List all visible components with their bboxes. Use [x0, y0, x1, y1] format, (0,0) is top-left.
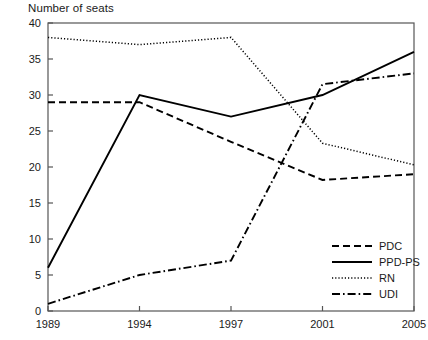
x-axis-tick-label: 1997 [219, 318, 243, 330]
y-axis-tick-label: 20 [29, 161, 41, 173]
legend-label-ppd-ps: PPD-PS [379, 256, 420, 268]
x-axis-tick-label: 1989 [36, 318, 60, 330]
data-series-group [48, 37, 414, 303]
y-axis-tick-label: 35 [29, 53, 41, 65]
y-axis-tick-label: 25 [29, 125, 41, 137]
series-line-rn [48, 37, 414, 164]
plot-frame [48, 23, 414, 311]
legend-label-rn: RN [379, 272, 395, 284]
y-axis-tick-label: 30 [29, 89, 41, 101]
x-axis-tick-label: 1994 [127, 318, 151, 330]
y-axis-tick-label: 5 [35, 269, 41, 281]
line-chart-plot: 0510152025303540 19891994199720012005 PD… [0, 0, 428, 340]
y-axis-tick-label: 0 [35, 305, 41, 317]
y-axis-tick-label: 10 [29, 233, 41, 245]
y-axis-tick-label: 40 [29, 17, 41, 29]
y-axis-tick-label: 15 [29, 197, 41, 209]
chart-container: Number of seats 0510152025303540 1989199… [0, 0, 428, 340]
series-line-udi [48, 73, 414, 303]
series-line-ppd-ps [48, 52, 414, 268]
chart-legend: PDCPPD-PSRNUDI [332, 240, 420, 300]
x-axis-ticks: 19891994199720012005 [36, 306, 426, 330]
legend-label-pdc: PDC [379, 240, 402, 252]
x-axis-tick-label: 2005 [402, 318, 426, 330]
series-line-pdc [48, 102, 414, 180]
x-axis-tick-label: 2001 [310, 318, 334, 330]
y-axis-ticks: 0510152025303540 [29, 17, 53, 317]
legend-label-udi: UDI [379, 288, 398, 300]
